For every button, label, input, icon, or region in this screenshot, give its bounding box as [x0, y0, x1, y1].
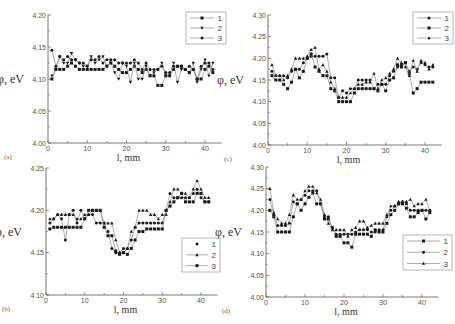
- chart-panel-b: 4.104.154.204.25010203040φ, eVl, mm(b)12…: [0, 165, 220, 316]
- data-point: [105, 58, 108, 61]
- data-point: [337, 100, 340, 103]
- data-point: [109, 58, 112, 61]
- legend-label: 2: [212, 251, 217, 260]
- data-point: [424, 218, 427, 221]
- data-point: [64, 226, 67, 229]
- data-point: [87, 209, 90, 212]
- data-point: [91, 213, 94, 216]
- data-point: [141, 222, 144, 225]
- data-point: [165, 209, 168, 212]
- data-point: [74, 58, 77, 61]
- data-point: [161, 227, 164, 230]
- y-tick-label: 4.05: [250, 272, 264, 279]
- y-tick-label: 4.10: [32, 76, 46, 83]
- data-point: [141, 230, 144, 233]
- legend-label: 1: [212, 240, 217, 249]
- x-axis-label: l, mm: [334, 306, 358, 317]
- y-tick-label: 4.15: [250, 229, 264, 236]
- data-point: [207, 74, 210, 77]
- x-axis-label: l, mm: [337, 154, 361, 165]
- data-point: [48, 222, 51, 225]
- x-tick-label: 20: [123, 145, 131, 152]
- data-point: [180, 196, 183, 199]
- x-tick-label: 10: [303, 147, 311, 154]
- data-point: [298, 76, 301, 79]
- data-point: [203, 58, 206, 61]
- data-point: [200, 192, 203, 195]
- data-point: [358, 228, 361, 231]
- data-point: [125, 65, 128, 68]
- data-point: [95, 209, 98, 212]
- data-point: [276, 231, 279, 234]
- legend-marker-icon: [428, 27, 431, 30]
- data-point: [76, 222, 79, 225]
- data-point: [341, 100, 344, 103]
- data-point: [339, 233, 342, 236]
- data-point: [392, 67, 395, 70]
- data-point: [125, 62, 128, 65]
- data-point: [424, 81, 427, 84]
- data-point: [157, 227, 160, 230]
- y-tick-label: 4.20: [32, 12, 46, 19]
- data-point: [180, 192, 183, 195]
- data-point: [90, 68, 93, 71]
- x-tick-label: 0: [46, 145, 50, 152]
- data-point: [318, 55, 321, 58]
- data-point: [192, 68, 195, 71]
- data-point: [48, 227, 51, 230]
- x-tick-label: 30: [162, 145, 170, 152]
- legend: 123: [413, 12, 453, 44]
- data-point: [392, 76, 395, 79]
- data-point: [362, 228, 365, 231]
- y-tick-label: 4.25: [250, 185, 264, 192]
- data-point: [270, 70, 273, 73]
- data-point: [54, 65, 57, 68]
- data-point: [268, 209, 271, 212]
- data-point: [325, 53, 328, 56]
- data-point: [350, 228, 353, 231]
- data-point: [424, 209, 427, 212]
- data-point: [362, 233, 365, 236]
- data-point: [58, 55, 61, 58]
- data-point: [307, 196, 310, 199]
- legend-marker-icon: [196, 243, 199, 246]
- data-point: [172, 196, 175, 199]
- data-point: [145, 62, 148, 65]
- data-point: [274, 79, 277, 82]
- legend-label: 1: [445, 14, 450, 23]
- data-point: [311, 189, 314, 192]
- data-point: [130, 238, 133, 241]
- data-point: [149, 68, 152, 71]
- panel-label: (a): [4, 153, 12, 161]
- data-point: [184, 200, 187, 203]
- data-point: [192, 187, 195, 190]
- x-tick-label: 0: [266, 147, 270, 154]
- y-tick-label: 4.05: [252, 120, 266, 127]
- data-point: [419, 59, 422, 62]
- data-point: [169, 192, 172, 195]
- panel-label: (b): [2, 305, 11, 313]
- data-point: [192, 62, 195, 65]
- data-point: [157, 222, 160, 225]
- data-point: [56, 226, 59, 229]
- data-point: [404, 61, 407, 64]
- data-point: [118, 253, 121, 256]
- data-point: [413, 215, 416, 218]
- data-point: [160, 65, 163, 68]
- data-point: [145, 227, 148, 230]
- legend-label: 2: [445, 24, 450, 33]
- data-point: [350, 246, 353, 249]
- data-point: [211, 71, 214, 74]
- data-point: [276, 217, 279, 220]
- x-tick-label: 0: [44, 297, 48, 304]
- data-point: [149, 222, 152, 225]
- data-point: [176, 81, 179, 84]
- legend: 123: [403, 235, 452, 270]
- data-point: [370, 224, 373, 227]
- data-point: [282, 83, 285, 86]
- series-3: [268, 185, 431, 238]
- data-point: [64, 238, 67, 241]
- y-tick-label: 4.00: [250, 294, 264, 301]
- data-point: [103, 226, 106, 229]
- y-tick-label: 4.00: [252, 142, 266, 149]
